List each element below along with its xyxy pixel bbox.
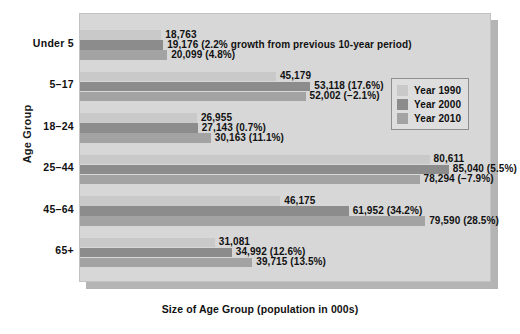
bar-year-1990[interactable]: [80, 72, 276, 82]
bar-year-1990[interactable]: [80, 238, 215, 248]
bar-group: 26,95527,143 (0.7%)30,163 (11.1%): [80, 113, 490, 143]
bar-value-label: 78,294 (−7.9%): [424, 174, 494, 185]
bar-row: 30,163 (11.1%): [80, 133, 490, 143]
bar-year-2010[interactable]: [80, 133, 211, 143]
bar-row: 52,002 (−2.1%): [80, 92, 490, 102]
bar-year-2000[interactable]: [80, 40, 163, 50]
bar-value-label: 39,715 (13.5%): [256, 257, 326, 268]
category-label-0: Under 5: [0, 37, 74, 49]
bar-year-2010[interactable]: [80, 258, 252, 268]
category-label-2: 18–24: [0, 120, 74, 132]
bar-value-label: 79,590 (28.5%): [429, 215, 499, 226]
category-label-5: 65+: [0, 244, 74, 256]
x-axis-title: Size of Age Group (population in 000s): [0, 303, 520, 315]
bar-value-label: 52,002 (−2.1%): [310, 91, 380, 102]
category-label-3: 25–44: [0, 161, 74, 173]
bar-year-2000[interactable]: [80, 206, 349, 216]
bar-row: 78,294 (−7.9%): [80, 175, 490, 185]
bar-year-1990[interactable]: [80, 113, 197, 123]
bar-group: 45,17953,118 (17.6%)52,002 (−2.1%): [80, 72, 490, 102]
bar-value-label: 45,179: [280, 71, 311, 82]
bar-row: 45,179: [80, 72, 490, 82]
bar-row: 19,176 (2.2% growth from previous 10-yea…: [80, 40, 490, 50]
bar-year-2000[interactable]: [80, 82, 310, 92]
bar-value-label: 30,163 (11.1%): [215, 132, 284, 143]
bar-row: 80,611: [80, 155, 490, 165]
bar-year-1990[interactable]: [80, 196, 280, 206]
category-label-1: 5–17: [0, 78, 74, 90]
bar-value-label: 20,099 (4.8%): [171, 49, 235, 60]
bar-row: 46,175: [80, 196, 490, 206]
bar-year-2000[interactable]: [80, 123, 198, 133]
category-label-4: 45–64: [0, 203, 74, 215]
bar-year-2010[interactable]: [80, 92, 306, 102]
bar-value-label: 46,175: [284, 195, 315, 206]
bar-group: 80,61185,040 (5.5%)78,294 (−7.9%): [80, 155, 490, 185]
bar-row: 26,955: [80, 113, 490, 123]
bar-row: 53,118 (17.6%): [80, 82, 490, 92]
chart-figure: Year 1990 Year 2000 Year 2010 18,76319,1…: [0, 0, 520, 334]
bar-year-2010[interactable]: [80, 50, 167, 60]
bar-row: 39,715 (13.5%): [80, 258, 490, 268]
bar-year-1990[interactable]: [80, 30, 161, 40]
bar-year-2000[interactable]: [80, 165, 449, 175]
bar-year-2010[interactable]: [80, 175, 420, 185]
bar-group: 31,08134,992 (12.6%)39,715 (13.5%): [80, 238, 490, 268]
bar-year-1990[interactable]: [80, 155, 430, 165]
bar-group: 46,17561,952 (34.2%)79,590 (28.5%): [80, 196, 490, 226]
bar-row: 27,143 (0.7%): [80, 123, 490, 133]
bar-group: 18,76319,176 (2.2% growth from previous …: [80, 30, 490, 60]
bar-row: 79,590 (28.5%): [80, 216, 490, 226]
bar-year-2010[interactable]: [80, 216, 425, 226]
bar-row: 20,099 (4.8%): [80, 50, 490, 60]
bar-value-label: 61,952 (34.2%): [353, 205, 423, 216]
plot-area: Year 1990 Year 2000 Year 2010 18,76319,1…: [79, 13, 491, 282]
bar-year-2000[interactable]: [80, 248, 232, 258]
